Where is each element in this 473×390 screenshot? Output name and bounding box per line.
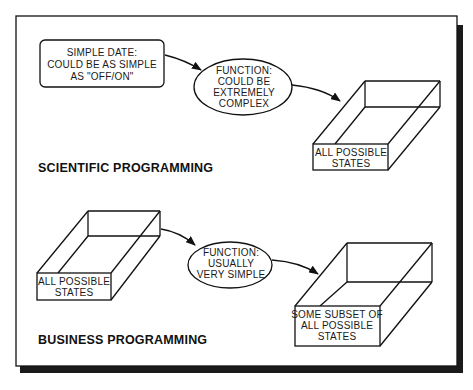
subset-line-2: ALL POSSIBLE xyxy=(301,320,373,331)
simple-function-line-1: FUNCTION: xyxy=(203,247,259,258)
simple-data-box: SIMPLE DATE: COULD BE AS SIMPLE AS "OFF/… xyxy=(40,40,164,87)
sci-states-line-1: ALL POSSIBLE xyxy=(315,147,387,158)
sci-states-line-2: STATES xyxy=(332,158,371,169)
scientific-programming-title: SCIENTIFIC PROGRAMMING xyxy=(38,161,213,175)
business-programming-title: BUSINESS PROGRAMMING xyxy=(38,333,207,347)
subset-line-1: SOME SUBSET OF xyxy=(291,309,383,320)
programming-comparison-diagram: SIMPLE DATE: COULD BE AS SIMPLE AS "OFF/… xyxy=(0,0,473,390)
complex-function-line-4: COMPLEX xyxy=(219,98,269,109)
simple-function-line-2: USUALLY xyxy=(208,258,254,269)
biz-input-states-line-1: ALL POSSIBLE xyxy=(38,276,110,287)
simple-data-line-2: COULD BE AS SIMPLE xyxy=(47,59,157,70)
simple-data-line-3: AS "OFF/ON" xyxy=(70,71,133,82)
biz-input-states-line-2: STATES xyxy=(55,287,94,298)
subset-line-3: STATES xyxy=(318,331,357,342)
simple-function-ellipse: FUNCTION: USUALLY VERY SIMPLE xyxy=(188,242,272,288)
complex-function-line-2: COULD BE xyxy=(218,76,271,87)
simple-function-line-3: VERY SIMPLE xyxy=(197,269,266,280)
complex-function-ellipse: FUNCTION: COULD BE EXTREMELY COMPLEX xyxy=(194,59,292,115)
complex-function-line-1: FUNCTION: xyxy=(216,65,272,76)
simple-data-line-1: SIMPLE DATE: xyxy=(67,47,138,58)
complex-function-line-3: EXTREMELY xyxy=(213,87,275,98)
